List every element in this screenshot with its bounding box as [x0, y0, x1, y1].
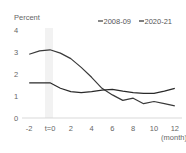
x-tick-label: 10 [150, 124, 158, 133]
x-axis: -2t=024681012 [26, 124, 179, 133]
y-axis-label: Percent [14, 13, 41, 22]
x-tick-label: 12 [171, 124, 179, 133]
y-tick-label: 3 [14, 48, 18, 57]
legend: 2008-092020-21 [98, 17, 172, 26]
x-tick-label: 6 [110, 124, 114, 133]
y-axis: 01234 [14, 26, 18, 123]
x-tick-label: 4 [90, 124, 94, 133]
y-tick-label: 4 [14, 26, 18, 35]
t0-highlight-band [45, 28, 53, 118]
legend-label: 2008-09 [104, 17, 132, 26]
line-chart: Percent 01234 -2t=024681012 (month) 2008… [0, 0, 186, 153]
x-tick-label: t=0 [45, 124, 56, 133]
x-tick-label: 8 [131, 124, 135, 133]
x-tick-label: 2 [69, 124, 73, 133]
y-tick-label: 2 [14, 70, 18, 79]
y-tick-label: 0 [14, 114, 18, 123]
y-tick-label: 1 [14, 92, 18, 101]
legend-label: 2020-21 [145, 17, 173, 26]
x-axis-unit-label: (month) [161, 133, 186, 142]
x-tick-label: -2 [26, 124, 33, 133]
